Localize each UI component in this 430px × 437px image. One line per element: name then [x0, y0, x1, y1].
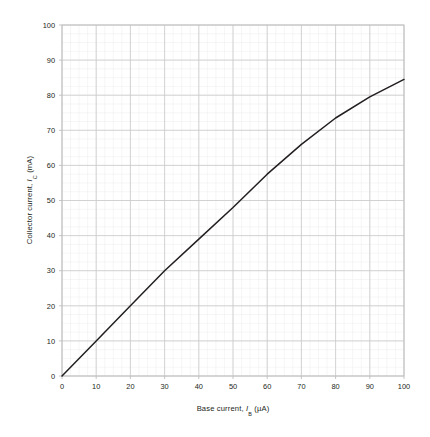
x-tick-label: 80 — [331, 382, 339, 391]
axis-title-suffix: (µA) — [252, 404, 270, 413]
y-tick-label: 80 — [47, 91, 55, 100]
x-tick-label: 20 — [126, 382, 134, 391]
y-tick-label: 60 — [47, 161, 55, 170]
x-tick-label: 40 — [195, 382, 203, 391]
axis-title-prefix: Collector current, — [25, 181, 34, 244]
figure-background — [0, 0, 430, 437]
x-tick-label: 60 — [263, 382, 271, 391]
y-tick-label: 100 — [43, 21, 55, 30]
axis-title-prefix: Base current, — [197, 404, 246, 413]
axis-title-suffix: (mA) — [25, 155, 34, 175]
x-tick-label: 90 — [366, 382, 374, 391]
x-tick-label: 100 — [398, 382, 410, 391]
transistor-transfer-characteristic-chart: 0102030405060708090100 01020304050607080… — [0, 0, 430, 437]
x-tick-label: 0 — [60, 382, 64, 391]
y-tick-label: 0 — [51, 372, 55, 381]
y-tick-label: 20 — [47, 302, 55, 311]
x-tick-label: 10 — [92, 382, 100, 391]
y-tick-label: 70 — [47, 126, 55, 135]
y-tick-label: 90 — [47, 56, 55, 65]
y-tick-label: 30 — [47, 266, 55, 275]
y-tick-label: 50 — [47, 196, 55, 205]
y-tick-label: 40 — [47, 231, 55, 240]
x-tick-label: 50 — [229, 382, 237, 391]
x-tick-label: 30 — [160, 382, 168, 391]
x-tick-label: 70 — [297, 382, 305, 391]
y-tick-label: 10 — [47, 337, 55, 346]
